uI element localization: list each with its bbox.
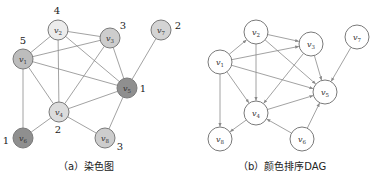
a-node-v2: v24 <box>48 5 68 40</box>
a-node-v3: v33 <box>100 20 126 48</box>
color-order-dag: v1v2v3v4v5v6v7v8 （b）颜色排序DAG <box>208 20 369 172</box>
b-edge-v4-v5 <box>267 96 313 110</box>
b-node-v1: v1 <box>208 50 232 74</box>
a-node-v6: v61 <box>3 128 33 148</box>
b-edge-v6-v5 <box>307 103 319 128</box>
b-node-v7: v7 <box>345 25 369 49</box>
a-edge-v2-v1 <box>31 36 51 52</box>
a-edge-v1-v5 <box>33 62 118 86</box>
colored-graph: v15v24v33v42v51v61v72v83 （a）染色图 <box>3 5 181 172</box>
b-node-v2: v2 <box>244 20 268 44</box>
color-number: 2 <box>175 20 181 31</box>
b-edge-v3-v5 <box>314 56 321 80</box>
a-node-v8: v83 <box>95 128 123 152</box>
a-edge-v3-v5 <box>113 47 124 78</box>
b-edge-v2-v3 <box>268 35 299 42</box>
color-number: 1 <box>3 135 9 146</box>
color-number: 1 <box>140 83 146 94</box>
color-number: 3 <box>117 141 123 152</box>
a-node-v5: v51 <box>117 78 146 98</box>
color-number: 2 <box>55 124 61 135</box>
b-edge-v7-v5 <box>331 47 351 81</box>
b-node-v6: v6 <box>290 127 314 151</box>
a-node-v1: v15 <box>13 35 33 69</box>
b-edge-v1-v2 <box>229 40 246 54</box>
caption-b: （b）颜色排序DAG <box>238 160 326 172</box>
b-node-v3: v3 <box>299 32 323 56</box>
a-edge-v3-v4 <box>65 46 105 104</box>
a-edge-v5-v8 <box>109 97 123 129</box>
caption-a: （a）染色图 <box>58 160 114 172</box>
b-edge-v1-v3 <box>232 46 299 59</box>
a-edge-v1-v4 <box>29 67 54 103</box>
b-node-v8: v8 <box>208 127 232 151</box>
a-node-v7: v72 <box>151 20 181 40</box>
a-edge-v2-v3 <box>68 32 100 37</box>
b-edge-v4-v8 <box>230 120 246 132</box>
color-number: 5 <box>20 35 26 46</box>
a-edge-v4-v8 <box>68 117 97 133</box>
a-edge-v7-v5 <box>132 39 156 80</box>
a-edge-v4-v6 <box>31 118 51 132</box>
figure-canvas: v15v24v33v42v51v61v72v83 （a）染色图 v1v2v3v4… <box>0 0 376 182</box>
b-edge-v1-v5 <box>232 65 313 88</box>
b-edge-v3-v4 <box>264 53 304 103</box>
b-edge-v1-v4 <box>227 72 249 103</box>
color-number: 4 <box>54 5 60 16</box>
a-edge-v4-v5 <box>68 91 117 108</box>
b-edge-v6-v4 <box>267 119 292 133</box>
colored-graph-edges <box>23 32 156 134</box>
a-edge-v2-v4 <box>58 40 59 102</box>
b-node-v4: v4 <box>244 101 268 125</box>
a-node-v4: v42 <box>49 102 69 135</box>
color-number: 3 <box>120 20 126 31</box>
b-node-v5: v5 <box>313 80 337 104</box>
